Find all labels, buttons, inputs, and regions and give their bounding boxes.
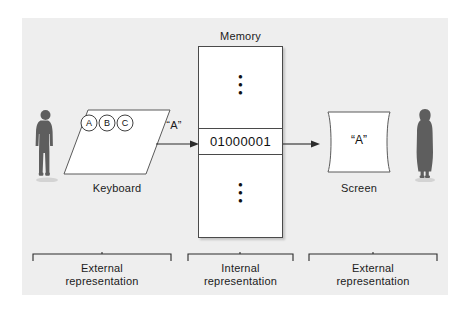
memory-ellipsis-bottom: ●●●: [199, 181, 282, 205]
screen-display-text: “A”: [318, 133, 400, 147]
key-B-label: B: [98, 114, 116, 132]
arrow-memory-to-screen: [283, 136, 321, 154]
key-A-label: A: [80, 114, 98, 132]
figure-root: A B C Keyboard “A” Memory ●●● 01000001 ●…: [0, 0, 470, 311]
arrow-keyboard-to-memory: [156, 136, 200, 154]
memory-ellipsis-top: ●●●: [199, 73, 282, 97]
key-B[interactable]: B: [98, 114, 116, 136]
person-left-icon: [33, 108, 59, 182]
keyboard-label: Keyboard: [62, 182, 172, 195]
key-A[interactable]: A: [80, 114, 98, 136]
signal-label-keyboard: “A”: [152, 119, 196, 132]
memory-cell-value: 01000001: [210, 134, 271, 149]
key-C-label: C: [116, 114, 134, 132]
memory-label: Memory: [198, 30, 283, 43]
memory-cell[interactable]: 01000001: [199, 128, 282, 155]
bracket-label-external-right: External representation: [308, 262, 438, 288]
bracket-label-external-left: External representation: [32, 262, 172, 288]
key-C[interactable]: C: [116, 114, 134, 136]
person-right-icon: [412, 108, 438, 182]
bracket-label-internal: Internal representation: [187, 262, 294, 288]
memory-box: ●●● 01000001 ●●●: [198, 46, 283, 238]
screen-label: Screen: [318, 182, 400, 195]
